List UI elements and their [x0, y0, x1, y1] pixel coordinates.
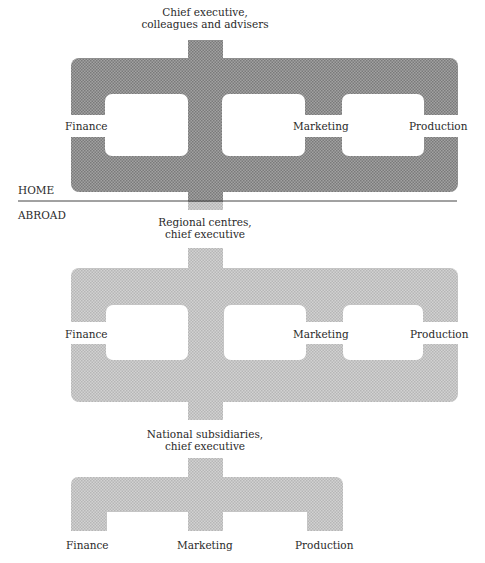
regional-finance-label: Finance [65, 328, 108, 340]
head-office-title: Chief executive, colleagues and advisers [140, 6, 270, 30]
national-subsidiaries-block [71, 458, 343, 531]
abroad-zone-label: ABROAD [18, 209, 66, 221]
head-office-production-label: Production [409, 120, 467, 132]
regional-centres-block [60, 248, 465, 420]
head-office-title-line1: Chief executive, [140, 6, 270, 18]
regional-centres-title: Regional centres, chief executive [145, 216, 265, 240]
head-office-title-line2: colleagues and advisers [140, 18, 270, 30]
head-office-finance-label: Finance [65, 120, 108, 132]
regional-centres-title-line1: Regional centres, [145, 216, 265, 228]
national-finance-label: Finance [66, 539, 109, 551]
head-office-block [60, 40, 465, 202]
national-subsidiaries-title-line1: National subsidiaries, [135, 428, 275, 440]
regional-production-label: Production [410, 328, 468, 340]
regional-centres-title-line2: chief executive [145, 228, 265, 240]
national-subsidiaries-title-line2: chief executive [135, 440, 275, 452]
national-subsidiaries-title: National subsidiaries, chief executive [135, 428, 275, 452]
regional-marketing-label: Marketing [293, 328, 349, 340]
head-office-marketing-label: Marketing [293, 120, 349, 132]
home-zone-label: HOME [18, 184, 54, 196]
national-production-label: Production [295, 539, 353, 551]
national-marketing-label: Marketing [177, 539, 233, 551]
org-diagram [0, 0, 485, 563]
